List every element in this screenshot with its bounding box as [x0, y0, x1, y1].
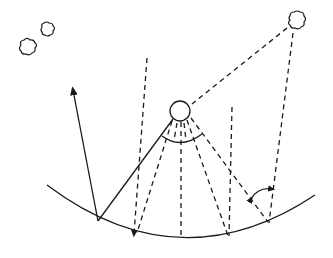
surface-curve: [47, 185, 315, 238]
cloud-icon: [289, 11, 306, 29]
diagram-svg: [0, 0, 333, 258]
diagram-canvas: [0, 0, 333, 258]
sun-icon: [170, 101, 190, 121]
cloud-icon: [41, 22, 55, 36]
dashed-rays: [134, 28, 293, 238]
reflected-ray-arrow: [73, 90, 98, 221]
view-angle-arc: [162, 134, 202, 143]
angle-arrow: [251, 189, 272, 199]
cloud-icon: [20, 39, 37, 55]
